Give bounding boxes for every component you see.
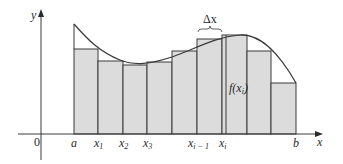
- tick-label-x-i: xi: [218, 136, 227, 151]
- riemann-sum-diagram: y x 0 a x1 x2 x3 xi − 1 xi b Δx f(xi): [0, 0, 343, 164]
- tick-label-x-i-minus-1: xi − 1: [187, 136, 209, 151]
- y-axis-label: y: [30, 8, 37, 22]
- x-axis-label: x: [316, 135, 323, 149]
- rectangle-1: [74, 49, 98, 134]
- rectangle-6: [197, 39, 222, 134]
- rectangle-2: [98, 61, 123, 134]
- tick-label-x2: x2: [118, 136, 128, 151]
- delta-x-label: Δx: [203, 12, 217, 26]
- tick-label-b: b: [293, 136, 299, 150]
- rectangle-9: [271, 83, 296, 134]
- f-of-xi-label: f(xi): [229, 81, 248, 96]
- delta-x-brace: [198, 26, 222, 32]
- rectangle-5: [172, 51, 197, 134]
- tick-label-x3: x3: [142, 136, 152, 151]
- rectangle-3: [123, 65, 147, 134]
- tick-label-a: a: [71, 136, 77, 150]
- rectangle-8: [247, 51, 271, 134]
- tick-label-x1: x1: [93, 136, 103, 151]
- origin-label: 0: [34, 135, 40, 149]
- riemann-rectangles: [74, 35, 296, 134]
- rectangle-4: [147, 62, 172, 134]
- y-axis-arrow-icon: [38, 9, 44, 17]
